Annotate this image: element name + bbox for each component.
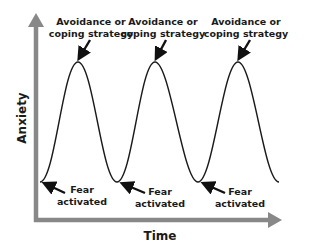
trough-arrow-icon [126,185,145,193]
trough-arrow-icon [207,185,225,193]
peak-arrow-icon [241,40,250,55]
x-axis-arrowhead-icon [268,212,282,228]
peak-arrow-icon [158,40,166,55]
peak-labels: Avoidance or coping strategy Avoidance o… [49,16,289,39]
trough-label-1-line2: activated [57,196,107,207]
trough-label-3-line2: activated [215,198,265,209]
anxiety-curve [40,62,279,182]
trough-labels: Fear activated Fear activated Fear activ… [57,184,265,209]
anxiety-cycle-diagram: Avoidance or coping strategy Avoidance o… [0,0,325,248]
trough-label-2-line1: Fear [148,186,172,197]
x-axis [34,212,282,228]
diagram-canvas: Avoidance or coping strategy Avoidance o… [0,0,325,248]
trough-arrow-icon [48,185,65,193]
peak-arrows [81,40,250,55]
peak-label-1-line1: Avoidance or [56,16,126,27]
y-axis [28,13,44,222]
y-axis-label: Anxiety [15,92,29,144]
peak-label-2-line2: coping strategy [121,28,206,39]
trough-label-2-line2: activated [135,198,185,209]
trough-label-1-line1: Fear [70,184,94,195]
y-axis-arrowhead-icon [28,13,44,27]
peak-arrow-icon [81,40,90,55]
x-axis-label: Time [144,229,177,243]
peak-label-2-line1: Avoidance or [128,16,198,27]
trough-label-3-line1: Fear [228,186,252,197]
peak-label-3-line2: coping strategy [204,28,289,39]
peak-label-3-line1: Avoidance or [211,16,281,27]
